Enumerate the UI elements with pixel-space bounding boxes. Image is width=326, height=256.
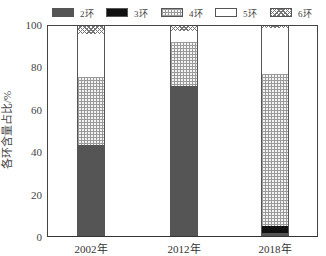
bar-segment-r4 — [170, 42, 198, 86]
bar-segment-r5 — [261, 28, 289, 74]
legend-swatch-3ring — [106, 8, 128, 17]
legend-label: 4环 — [189, 7, 203, 20]
y-tick: 20 — [0, 189, 42, 201]
bar-segment-r4 — [261, 74, 289, 225]
x-tick: 2012年 — [154, 240, 214, 256]
bar-segment-r2 — [170, 86, 198, 236]
legend-swatch-2ring — [52, 8, 74, 17]
y-tick: 40 — [0, 146, 42, 158]
bar-2018 — [261, 26, 289, 236]
bar-segment-r3 — [261, 226, 289, 233]
y-tick: 60 — [0, 104, 42, 116]
bar-segment-r6 — [261, 26, 289, 28]
bar-segment-r5 — [77, 34, 105, 77]
legend-label: 3环 — [134, 7, 148, 20]
x-tick: 2018年 — [245, 240, 305, 256]
bar-segment-r4 — [77, 77, 105, 144]
legend-swatch-5ring — [215, 8, 237, 17]
bar-2012 — [170, 26, 198, 236]
y-tick: 100 — [0, 19, 42, 31]
y-tick: 80 — [0, 61, 42, 73]
legend-label: 2环 — [80, 7, 94, 20]
bar-segment-r2 — [261, 233, 289, 236]
bar-segment-r2 — [77, 145, 105, 236]
bar-segment-r6 — [170, 26, 198, 31]
y-tick: 0 — [0, 231, 42, 243]
legend-label: 5环 — [243, 7, 257, 20]
bar-segment-r6 — [77, 26, 105, 34]
bar-segment-r5 — [170, 31, 198, 42]
legend-label: 6环 — [298, 7, 312, 20]
legend-swatch-6ring — [270, 8, 292, 17]
bar-2002 — [77, 26, 105, 236]
x-tick: 2002年 — [61, 240, 121, 256]
legend-swatch-4ring — [161, 8, 183, 17]
plot-area — [47, 25, 318, 237]
